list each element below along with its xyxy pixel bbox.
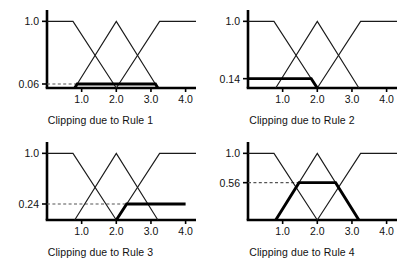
chart-svg-rule-1: 1.02.03.04.01.00.06 bbox=[0, 0, 201, 132]
plot-0: 1.02.03.04.01.00.06 bbox=[19, 10, 196, 105]
chart-panel-rule-2: 1.02.03.04.01.00.14 Clipping due to Rule… bbox=[201, 0, 403, 132]
membership-curve-middle-triangle bbox=[75, 153, 158, 220]
x-tick-label-3.0: 3.0 bbox=[144, 93, 159, 105]
y-tick-label-clip-level: 0.56 bbox=[220, 177, 241, 189]
membership-curve-high-shoulder bbox=[317, 153, 397, 220]
x-tick-label-4.0: 4.0 bbox=[178, 225, 193, 237]
plot-1: 1.02.03.04.01.00.14 bbox=[220, 10, 397, 105]
membership-curve-high-shoulder bbox=[317, 21, 397, 88]
x-tick-label-4.0: 4.0 bbox=[379, 225, 394, 237]
membership-curve-middle-triangle bbox=[75, 21, 158, 88]
x-tick-label-3.0: 3.0 bbox=[345, 93, 360, 105]
chart-caption-rule-4: Clipping due to Rule 4 bbox=[201, 246, 403, 258]
x-tick-label-3.0: 3.0 bbox=[144, 225, 159, 237]
membership-curve-high-shoulder bbox=[116, 153, 196, 220]
y-tick-label-clip-level: 0.24 bbox=[19, 198, 40, 210]
y-tick-label-1.0: 1.0 bbox=[24, 147, 39, 159]
x-tick-label-1.0: 1.0 bbox=[74, 93, 89, 105]
figure-panel-grid: 1.02.03.04.01.00.06 Clipping due to Rule… bbox=[0, 0, 403, 264]
chart-caption-rule-2: Clipping due to Rule 2 bbox=[201, 114, 403, 126]
x-tick-label-2.0: 2.0 bbox=[109, 93, 124, 105]
plot-3: 1.02.03.04.01.00.56 bbox=[220, 142, 397, 237]
clipped-output-curve bbox=[248, 79, 317, 88]
membership-curve-high-shoulder bbox=[116, 21, 196, 88]
chart-caption-rule-1: Clipping due to Rule 1 bbox=[0, 114, 201, 126]
membership-curve-low-shoulder bbox=[47, 153, 116, 220]
y-tick-label-1.0: 1.0 bbox=[225, 147, 240, 159]
chart-svg-rule-2: 1.02.03.04.01.00.14 bbox=[201, 0, 403, 132]
y-tick-label-1.0: 1.0 bbox=[225, 15, 240, 27]
chart-panel-rule-3: 1.02.03.04.01.00.24 Clipping due to Rule… bbox=[0, 132, 201, 264]
clipped-output-curve bbox=[276, 183, 359, 220]
chart-panel-rule-4: 1.02.03.04.01.00.56 Clipping due to Rule… bbox=[201, 132, 403, 264]
x-tick-label-1.0: 1.0 bbox=[275, 225, 290, 237]
plot-2: 1.02.03.04.01.00.24 bbox=[19, 142, 196, 237]
x-tick-label-1.0: 1.0 bbox=[74, 225, 89, 237]
y-tick-label-1.0: 1.0 bbox=[24, 15, 39, 27]
clipped-output-curve bbox=[116, 204, 185, 220]
chart-svg-rule-4: 1.02.03.04.01.00.56 bbox=[201, 132, 403, 264]
chart-caption-rule-3: Clipping due to Rule 3 bbox=[0, 246, 201, 258]
x-tick-label-1.0: 1.0 bbox=[275, 93, 290, 105]
membership-curve-middle-triangle bbox=[276, 153, 359, 220]
membership-curve-low-shoulder bbox=[47, 21, 116, 88]
x-tick-label-2.0: 2.0 bbox=[310, 93, 325, 105]
x-tick-label-2.0: 2.0 bbox=[109, 225, 124, 237]
y-tick-label-clip-level: 0.14 bbox=[220, 73, 241, 85]
y-tick-label-clip-level: 0.06 bbox=[19, 78, 40, 90]
chart-panel-rule-1: 1.02.03.04.01.00.06 Clipping due to Rule… bbox=[0, 0, 201, 132]
chart-svg-rule-3: 1.02.03.04.01.00.24 bbox=[0, 132, 201, 264]
x-tick-label-4.0: 4.0 bbox=[379, 93, 394, 105]
x-tick-label-3.0: 3.0 bbox=[345, 225, 360, 237]
x-tick-label-4.0: 4.0 bbox=[178, 93, 193, 105]
x-tick-label-2.0: 2.0 bbox=[310, 225, 325, 237]
